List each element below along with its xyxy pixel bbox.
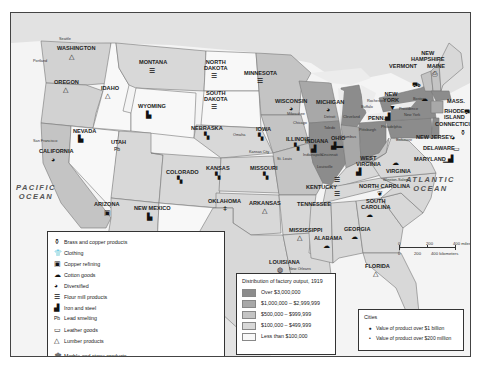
diversified-icon: ◕ <box>451 134 455 141</box>
swatch <box>242 289 256 297</box>
legend-item: ☰Flour mill products <box>54 291 138 302</box>
label-oklahoma: OKLAHOMA <box>208 198 241 204</box>
label-wyoming: WYOMING <box>138 103 166 109</box>
lead-smelting-icon: Pb <box>114 146 120 153</box>
railroad-icon: ▙ <box>78 135 83 142</box>
marble-stone-icon: 🏛 <box>54 350 64 357</box>
atlantic-ocean-label: ATLANTICOCEAN <box>406 175 455 193</box>
legend-item: ▭Leather goods <box>54 324 138 335</box>
city-cleveland: Cleveland <box>343 115 360 119</box>
iron-steel-icon: ▟ <box>311 145 316 152</box>
city-milwaukee: Milwaukee <box>287 112 305 116</box>
cotton-goods-icon: ☁ <box>323 242 330 249</box>
label-new-mexico: NEW MEXICO <box>134 205 171 211</box>
city-detroit: Detroit <box>324 115 335 119</box>
label-nebraska: NEBRASKA <box>191 125 223 131</box>
swatch <box>242 311 256 319</box>
label-mass: MASS. <box>447 98 465 104</box>
legend-row: ●Value of product over $1 billion <box>364 323 458 333</box>
label-indiana: INDIANA <box>305 138 328 144</box>
iron-steel-icon: ▟ <box>385 113 390 120</box>
small-city-dot-icon: • <box>364 333 376 343</box>
state-montana <box>116 43 206 91</box>
label-arkansas: ARKANSAS <box>249 200 281 206</box>
city-winston-salem: Winston-Salem <box>383 178 409 182</box>
city-pittsburgh: Pittsburgh <box>359 128 376 132</box>
iron-steel-icon: ▟ <box>54 302 64 313</box>
shipbuilding-icon: ▁▟ <box>443 155 453 162</box>
clothing-icon: ▼ <box>389 104 396 111</box>
swatch <box>242 333 256 341</box>
city-rochester: Rochester <box>367 99 384 103</box>
lumber-icon: △ <box>373 270 378 277</box>
city-cincinnati: Cincinnati <box>321 153 338 157</box>
label-maine: MAINE <box>427 63 445 69</box>
meat-packing-icon: ▚ <box>204 132 209 139</box>
city-providence: Providence <box>399 107 418 111</box>
label-west-virginia: WESTVIRGINIA <box>356 155 381 167</box>
label-alabama: ALABAMA <box>314 235 342 241</box>
label-montana: MONTANA <box>139 59 167 65</box>
label-new-hampshire: NEWHAMPSHIRE <box>411 50 445 62</box>
distribution-legend-title: Distribution of factory output, 1919 <box>242 278 330 284</box>
label-colorado: COLORADO <box>166 169 199 175</box>
label-vermont: VERMONT <box>389 63 417 69</box>
legend-item: PbLead smelting <box>54 313 138 324</box>
legend-row: Less than $100,000 <box>242 331 330 342</box>
legend-row: $100,000 – $499,999 <box>242 320 330 331</box>
railroad-icon: ▙ <box>147 213 152 220</box>
cotton-goods-icon: ☁ <box>366 211 373 218</box>
legend-row: Over $3,000,000 <box>242 287 330 298</box>
state-oregon <box>41 83 103 128</box>
meat-packing-icon: ▚ <box>263 172 268 179</box>
city-indianapolis: Indianapolis <box>303 153 323 157</box>
city-san-francisco: San Francisco <box>33 139 57 143</box>
cotton-goods-icon: ☁ <box>392 159 399 166</box>
diversified-icon: ◕ <box>51 156 55 163</box>
label-north-dakota: NORTHDAKOTA <box>204 59 228 71</box>
diversified-icon: ◕ <box>54 280 64 291</box>
label-connecticut: CONNECTICUT <box>435 121 471 127</box>
meat-packing-icon: ▚ <box>215 172 220 179</box>
label-oregon: OREGON <box>54 79 79 85</box>
city-columbus: Columbus <box>339 135 356 139</box>
legend-item: ▣Copper refining <box>54 258 138 269</box>
diversified-icon: ◕ <box>289 105 293 112</box>
legend-row: $500,000 – $999,999 <box>242 309 330 320</box>
label-nevada: NEVADA <box>73 128 96 134</box>
distribution-legend: Distribution of factory output, 1919 Ove… <box>236 273 336 355</box>
label-delaware: DELAWARE <box>423 145 455 151</box>
label-tennessee: TENNESSEE <box>297 201 331 207</box>
large-city-dot-icon: ● <box>364 323 376 333</box>
clothing-icon: 👕 <box>54 247 64 258</box>
iron-steel-icon: ▟ <box>356 168 361 175</box>
label-mississippi: MISSISSIPPI <box>289 227 322 233</box>
map-frame: PACIFICOCEAN ATLANTICOCEAN Gulf of Mexic… <box>10 12 471 357</box>
lumber-icon: △ <box>105 92 110 99</box>
meat-packing-icon: ▚ <box>258 133 263 140</box>
products-legend: ⚱Brass and copper products 👕Clothing ▣Co… <box>47 231 225 357</box>
flour-mill-icon: ☰ <box>149 67 155 74</box>
label-louisiana: LOUISIANA <box>269 259 300 265</box>
legend-item: ◕Diversified <box>54 280 138 291</box>
label-north-carolina: NORTH CAROLINA <box>359 183 410 189</box>
cotton-goods-icon: ☁ <box>351 233 358 240</box>
label-iowa: IOWA <box>256 126 271 132</box>
label-south-dakota: SOUTHDAKOTA <box>204 90 228 102</box>
label-utah: UTAH <box>111 139 126 145</box>
swatch <box>242 322 256 330</box>
railroad-icon: ▙ <box>146 111 151 118</box>
label-maryland: MARYLAND <box>414 156 446 162</box>
cotton-goods-icon: ☁ <box>54 269 64 280</box>
legend-row: $1,000,000 – $2,999,999 <box>242 298 330 309</box>
state-connecticut <box>431 101 443 113</box>
flour-mill-icon: ☰ <box>211 103 217 110</box>
lumber-icon: △ <box>69 53 74 60</box>
legend-item: △Lumber products <box>54 335 138 346</box>
lumber-icon: △ <box>262 207 267 214</box>
label-michigan: MICHIGAN <box>316 99 344 105</box>
brass-copper-icon: ⚱ <box>54 236 64 247</box>
state-wyoming <box>131 88 196 138</box>
woolen-icon: ⛟ <box>412 81 421 88</box>
pacific-ocean-label: PACIFICOCEAN <box>16 183 56 201</box>
